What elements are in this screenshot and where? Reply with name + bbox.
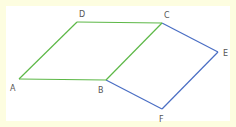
parallelogram-abcd [19, 22, 162, 80]
label-c: C [164, 11, 170, 20]
segment-ab [19, 79, 106, 80]
parallelogram-bcef [106, 23, 218, 109]
segment-da [19, 22, 77, 79]
label-f: F [159, 115, 164, 124]
segment-bc [106, 23, 162, 80]
segment-ef [162, 52, 218, 109]
segment-ce [162, 23, 218, 52]
label-e: E [223, 49, 228, 58]
label-d: D [79, 10, 85, 19]
segment-fb [106, 80, 162, 109]
label-b: B [98, 86, 104, 95]
segment-cd [77, 22, 162, 23]
geometry-diagram: A B C D E F [0, 0, 236, 127]
label-a: A [10, 84, 16, 93]
